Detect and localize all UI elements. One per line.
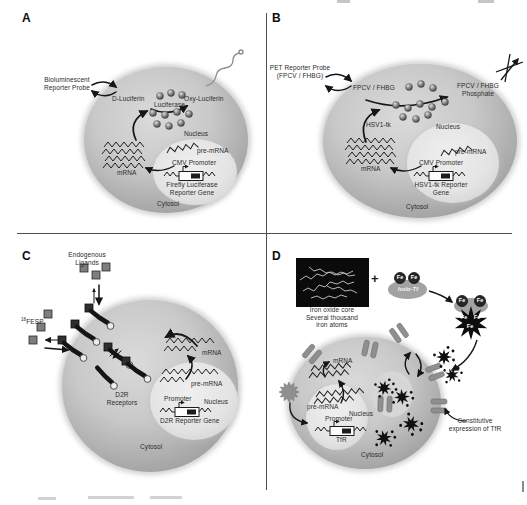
iron-oxide-core-caption: Iron oxide core Several thousand iron at… bbox=[306, 306, 358, 329]
fe-label: Fe bbox=[467, 324, 473, 330]
panel-c-letter: C bbox=[22, 250, 31, 262]
panel-b-nucleus-label: Nucleus bbox=[436, 123, 460, 131]
panel-b-mrna-label: mRNA bbox=[361, 165, 381, 173]
holo-tf-label: holo-Tf bbox=[398, 286, 418, 292]
complex-to-membrane-arrow bbox=[452, 340, 477, 370]
fpcv-fhbg-label: FPCV / FHBG bbox=[353, 84, 395, 92]
plus-sign: + bbox=[371, 272, 379, 285]
firefly-luciferase-gene-label: Firefly Luciferase Reporter Gene bbox=[166, 181, 217, 196]
panel-b-letter: B bbox=[272, 12, 281, 24]
oxy-luciferin-label: Oxy-Luciferin bbox=[184, 95, 224, 103]
iron-oxide-core-image bbox=[296, 258, 369, 307]
panel-c-pre-mrna-label: pre-mRNA bbox=[191, 380, 223, 388]
fe-label: Fe bbox=[459, 298, 465, 304]
panel-a-pre-mrna-label: pre-mRNA bbox=[197, 147, 229, 155]
panel-b-cytosol-label: Cytosol bbox=[406, 203, 428, 211]
panel-d-pre-mrna-label: pre-mRNA bbox=[307, 403, 339, 411]
panel-b-promoter-label: CMV Promoter bbox=[419, 159, 463, 167]
panel-a-nucleus-label: Nucleus bbox=[184, 130, 208, 138]
figure-four-panel-reporter-gene-diagram: A Bioluminescent Reporter Probe D-Lucife… bbox=[0, 0, 527, 505]
panel-a-mrna-label: mRNA bbox=[117, 169, 137, 177]
panel-d-promoter-label: Promoter bbox=[325, 415, 353, 423]
endogenous-ligands-label: Endogenous Ligands bbox=[68, 251, 106, 266]
bioluminescent-probe-label: Bioluminescent Reporter Probe bbox=[44, 76, 90, 91]
fesp-tracer-label: 18FESP bbox=[21, 316, 44, 326]
luciferase-label: Luciferase bbox=[154, 101, 185, 109]
fe-label: Fe bbox=[477, 298, 483, 304]
hsv1tk-label: HSV1-tk bbox=[366, 121, 391, 129]
pet-reporter-probe-label: PET Reporter Probe (FPCV / FHBG) bbox=[270, 64, 331, 79]
panel-a-cytosol-label: Cytosol bbox=[157, 200, 179, 208]
fe-label: Fe bbox=[461, 315, 467, 321]
tfr-gene-label: TfR bbox=[336, 436, 347, 444]
d2r-reporter-gene-label: D2R Reporter Gene bbox=[160, 417, 220, 425]
blocked-efflux-crossed-arrow bbox=[496, 54, 523, 82]
panel-b-pre-mrna-label: pre-mRNA bbox=[455, 148, 487, 156]
panel-c-mrna-label: mRNA bbox=[202, 349, 222, 357]
d-luciferin-label: D-Luciferin bbox=[112, 95, 145, 103]
fe-label: Fe bbox=[474, 315, 480, 321]
panel-a-letter: A bbox=[22, 12, 31, 24]
hsv1tk-gene-label: HSV1-tk Reporter Gene bbox=[415, 181, 468, 196]
d2r-receptors-label: D2R Receptors bbox=[107, 391, 138, 406]
panel-d-cytosol-label: Cytosol bbox=[361, 451, 383, 459]
panel-c-promoter-label: Promoter bbox=[164, 395, 192, 403]
fpcv-fhbg-phosphate-label: FPCV / FHBG Phosphate bbox=[457, 82, 499, 97]
panel-d-letter: D bbox=[272, 250, 281, 262]
panel-c-nucleus-label: Nucleus bbox=[204, 398, 228, 406]
panel-c-cytosol-label: Cytosol bbox=[140, 443, 162, 451]
panel-d-mrna-label: mRNA bbox=[333, 357, 353, 365]
fe-label: Fe bbox=[397, 275, 403, 281]
fe-label: Fe bbox=[411, 275, 417, 281]
constitutive-expression-label: Constitutive expression of TfR bbox=[449, 417, 502, 432]
panel-a-promoter-label: CMV Promoter bbox=[172, 159, 216, 167]
holo-tf-to-complex-arrow bbox=[429, 291, 452, 302]
